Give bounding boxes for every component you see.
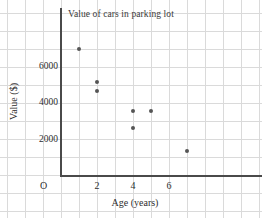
y-tick-labels: 200040006000: [14, 0, 58, 218]
x-axis-label: Age (years): [60, 197, 210, 208]
data-point: [149, 109, 153, 113]
y-tick-label: 2000: [18, 134, 58, 144]
chart-title: Value of cars in parking lot: [68, 9, 174, 19]
x-tick-label: 6: [156, 180, 182, 191]
grid-line-vertical: [79, 0, 80, 218]
data-point: [131, 109, 135, 113]
data-point: [95, 80, 99, 84]
y-axis-label: Value ($): [8, 62, 19, 142]
data-point: [77, 47, 81, 51]
data-point: [95, 89, 99, 93]
grid-line-vertical: [223, 0, 224, 218]
scatter-chart: Value of cars in parking lot 20004000600…: [0, 0, 262, 218]
x-tick-label: 2: [84, 180, 110, 191]
origin-label: O: [40, 180, 47, 191]
grid-line-vertical: [115, 0, 116, 218]
grid-line-vertical: [241, 0, 242, 218]
x-axis-line: [60, 175, 262, 177]
grid-line-vertical: [187, 0, 188, 218]
y-tick-label: 6000: [18, 61, 58, 71]
grid-line-vertical: [205, 0, 206, 218]
grid-line-vertical: [259, 0, 260, 218]
y-tick-label: 4000: [18, 97, 58, 107]
data-point: [185, 149, 189, 153]
y-axis-line: [60, 8, 62, 177]
data-point: [131, 126, 135, 130]
x-tick-label: 4: [120, 180, 146, 191]
